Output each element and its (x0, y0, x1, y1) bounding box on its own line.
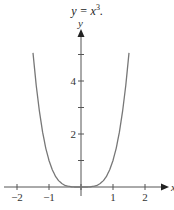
plot-area: xy −2−11224 (0, 0, 174, 210)
x-tick-label: 1 (110, 191, 116, 203)
tick-labels: −2−11224 (11, 75, 148, 203)
x-tick-label: 2 (142, 191, 148, 203)
y-axis-arrow-icon (78, 29, 85, 37)
y-tick-label: 4 (71, 75, 77, 87)
x-tick-label: −2 (11, 191, 23, 203)
x-tick-label: −1 (43, 191, 55, 203)
x-axis-label: x (170, 181, 174, 193)
y-tick-label: 2 (71, 128, 77, 140)
axes: xy (4, 17, 174, 196)
x-axis-arrow-icon (161, 184, 169, 191)
y-axis-label: y (77, 17, 83, 29)
